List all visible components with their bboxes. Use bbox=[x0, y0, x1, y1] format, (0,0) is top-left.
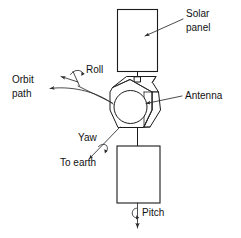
pitch-axis: Pitch bbox=[132, 203, 164, 228]
solar-panel-label-line1: Solar bbox=[186, 8, 210, 19]
roll-axis: Roll bbox=[61, 64, 103, 86]
lower-panel bbox=[117, 128, 160, 204]
antenna-label: Antenna bbox=[185, 90, 223, 101]
solar-panel bbox=[118, 10, 158, 79]
attitude-axes-diagram: Pitch Roll Orbit path Antenna bbox=[0, 0, 241, 238]
orbit-path-annotation: Orbit path bbox=[12, 74, 113, 104]
roll-label: Roll bbox=[86, 64, 103, 75]
yaw-label: Yaw bbox=[78, 132, 97, 143]
to-earth-label: To earth bbox=[60, 157, 96, 168]
orbit-path-label-line1: Orbit bbox=[12, 74, 34, 85]
pitch-label: Pitch bbox=[142, 207, 164, 218]
orbit-path-label-line2: path bbox=[12, 88, 31, 99]
solar-panel-label-line2: panel bbox=[186, 22, 210, 33]
yaw-axis: Yaw To earth bbox=[60, 127, 120, 168]
antenna-dish bbox=[114, 91, 147, 124]
